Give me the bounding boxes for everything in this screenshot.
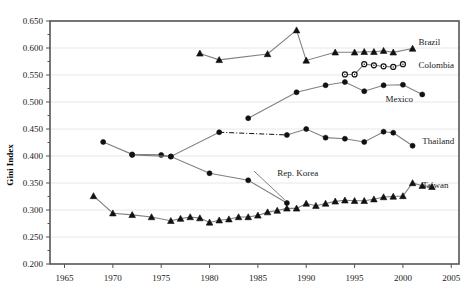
data-point-open-circle-center [354,74,355,75]
data-point-circle [294,90,299,95]
data-point-circle [207,171,212,176]
data-point-open-circle-center [393,66,394,67]
series-line [200,30,413,60]
y-tick-label: 0.650 [23,16,44,26]
data-point-triangle [187,214,194,220]
gridlines [50,21,459,237]
plot-border [50,21,459,264]
data-point-circle [342,136,347,141]
y-tick-label: 0.350 [23,178,44,188]
data-point-circle [217,130,222,135]
series-thailand [101,127,415,160]
y-axis-title: Gini Index [5,144,15,186]
x-tick-label: 2000 [394,273,413,283]
data-point-circle [323,83,328,88]
y-tick-label: 0.600 [23,43,44,53]
x-tick-label: 1975 [152,273,171,283]
series-rep-korea [130,152,290,205]
x-tick-label: 1990 [297,273,316,283]
series-line [132,155,287,203]
series-label-taiwan: Taiwan [422,180,449,190]
data-point-circle [410,143,415,148]
data-point-circle [284,132,289,137]
data-point-circle [391,130,396,135]
data-point-triangle [197,50,204,56]
data-point-circle [420,92,425,97]
data-point-circle [323,135,328,140]
x-tick-label: 1965 [56,273,75,283]
data-point-circle [362,139,367,144]
series-labels: BrazilColombiaMexicoThailandRep. KoreaTa… [254,37,455,200]
data-point-open-circle-center [402,63,403,64]
y-tick-label: 0.500 [23,97,44,107]
data-point-triangle [293,27,300,33]
data-point-circle [246,116,251,121]
series-taiwan [90,180,435,225]
data-point-circle [246,178,251,183]
data-point-circle [101,139,106,144]
series-brazil [197,27,416,63]
x-tick-label: 1985 [249,273,268,283]
data-point-circle [381,129,386,134]
y-tick-label: 0.550 [23,70,44,80]
plot-frame [50,21,459,264]
data-point-open-circle-center [364,63,365,64]
data-point-circle [400,82,405,87]
data-point-circle [342,80,347,85]
series-label-thailand: Thailand [422,136,454,146]
data-point-circle [362,89,367,94]
x-tick-label: 2005 [442,273,461,283]
data-point-circle [304,127,309,132]
data-point-triangle [90,193,97,199]
series-layer [90,27,435,225]
chart-canvas: 0.2000.2500.3000.3500.4000.4500.5000.550… [0,0,474,308]
y-tick-label: 0.400 [23,151,44,161]
series-label-colombia: Colombia [418,60,454,70]
data-point-open-circle-center [344,74,345,75]
series-label-mexico: Mexico [386,94,414,104]
y-tick-label: 0.300 [23,205,44,215]
data-point-circle [168,154,173,159]
series-label-brazil: Brazil [418,37,440,47]
data-point-circle [381,83,386,88]
gini-index-line-chart: 0.2000.2500.3000.3500.4000.4500.5000.550… [0,0,474,308]
x-tick-label: 1970 [104,273,123,283]
y-tick-label: 0.200 [23,259,44,269]
data-point-open-circle-center [373,65,374,66]
y-tick-label: 0.250 [23,232,44,242]
x-tick-label: 1995 [346,273,365,283]
data-point-open-circle-center [383,66,384,67]
data-point-circle [130,152,135,157]
y-tick-label: 0.450 [23,124,44,134]
x-tick-label: 1980 [201,273,220,283]
series-label-rep-korea: Rep. Korea [277,168,318,178]
x-axis-ticks: 196519701975198019851990199520002005 [56,264,461,283]
data-point-triangle [303,200,310,206]
y-axis-ticks: 0.2000.2500.3000.3500.4000.4500.5000.550… [23,16,50,269]
